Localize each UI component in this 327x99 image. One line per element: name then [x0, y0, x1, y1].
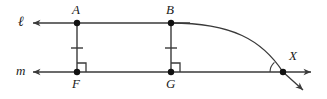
label-line-m: m: [16, 64, 25, 77]
curve-b-to-x: [171, 23, 283, 72]
tangent-ray-at-x: [283, 72, 303, 90]
angle-arc-at-x: [270, 62, 274, 72]
point-a-dot: [74, 20, 80, 26]
label-line-l: ℓ: [18, 15, 24, 29]
point-g-dot: [168, 69, 174, 75]
label-point-f: F: [72, 77, 80, 90]
label-point-x: X: [289, 49, 297, 62]
geometry-figure: ℓ m A B F G X: [0, 0, 327, 99]
point-x-dot: [280, 69, 286, 75]
geometry-canvas: [0, 0, 327, 99]
point-b-dot: [168, 20, 174, 26]
label-point-g: G: [166, 77, 175, 90]
label-point-b: B: [166, 3, 174, 16]
point-f-dot: [74, 69, 80, 75]
label-point-a: A: [72, 3, 80, 16]
